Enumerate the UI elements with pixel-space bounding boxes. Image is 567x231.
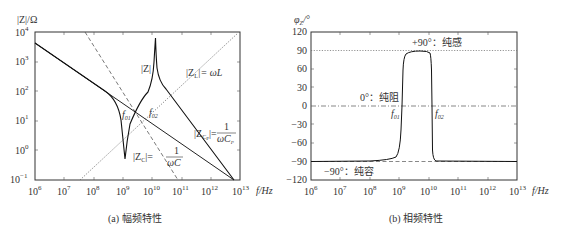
- svg-text:1010: 1010: [420, 184, 438, 197]
- svg-text:107: 107: [333, 184, 347, 197]
- svg-text:108: 108: [86, 184, 100, 197]
- svg-text:|ZCP|=: |ZCP|=: [194, 128, 217, 141]
- zc-line: [85, 32, 178, 180]
- f02-label: f02: [435, 108, 444, 120]
- svg-text:−90: −90: [291, 156, 307, 167]
- x-tick-labels: 106 107 108 109 1010 1011 1012 1013: [304, 184, 527, 197]
- svg-text:109: 109: [392, 184, 406, 197]
- svg-text:103: 103: [15, 54, 29, 67]
- svg-text:1010: 1010: [143, 184, 161, 197]
- caption-a: (a) 幅频特性: [108, 212, 162, 225]
- svg-text:1013: 1013: [509, 184, 527, 197]
- svg-text:106: 106: [304, 184, 318, 197]
- x-axis-label: f/Hz: [256, 185, 273, 196]
- zl-label: |ZL|= ωL: [186, 67, 223, 79]
- svg-text:120: 120: [292, 26, 307, 37]
- y-tick-labels: 120 90 60 30 0 −30 −60 −90 −120: [286, 26, 307, 185]
- svg-text:|ZC|=: |ZC|=: [133, 151, 153, 163]
- svg-text:104: 104: [15, 25, 29, 38]
- svg-text:1012: 1012: [201, 184, 219, 197]
- figure: 106 107 108 109 1010 1011 1012 1013 f/Hz…: [0, 0, 567, 231]
- svg-text:10−1: 10−1: [10, 172, 28, 185]
- f01-label: f01: [391, 108, 400, 120]
- svg-text:90: 90: [297, 45, 307, 56]
- svg-text:100: 100: [15, 143, 29, 156]
- svg-text:ωCP: ωCP: [217, 133, 234, 145]
- svg-text:1013: 1013: [232, 184, 250, 197]
- y-axis-label: φZ/°: [294, 14, 310, 26]
- svg-text:101: 101: [15, 113, 29, 126]
- y-tick-labels: 104 103 102 101 100 10−1: [10, 25, 29, 185]
- svg-text:107: 107: [57, 184, 71, 197]
- f01-label: f01: [122, 109, 131, 121]
- svg-text:1012: 1012: [479, 184, 497, 197]
- caption-b: (b) 相频特性: [389, 212, 443, 225]
- phase-chart: 106 107 108 109 1010 1011 1012 1013 f/Hz…: [286, 14, 548, 225]
- svg-text:102: 102: [15, 84, 29, 97]
- z-label: |Z|: [141, 63, 151, 74]
- svg-text:0: 0: [302, 100, 307, 111]
- svg-text:−30: −30: [291, 119, 307, 130]
- plus90-label: +90°：纯感: [412, 36, 462, 48]
- svg-text:109: 109: [116, 184, 130, 197]
- svg-text:106: 106: [28, 184, 42, 197]
- x-tick-labels: 106 107 108 109 1010 1011 1012 1013: [28, 184, 250, 197]
- svg-text:1011: 1011: [172, 184, 189, 197]
- svg-text:−120: −120: [286, 174, 307, 185]
- y-axis-label: |Z|/Ω: [17, 14, 37, 25]
- svg-text:30: 30: [297, 82, 307, 93]
- svg-text:ωC: ωC: [167, 157, 181, 168]
- svg-text:108: 108: [363, 184, 377, 197]
- svg-text:1011: 1011: [450, 184, 467, 197]
- minus90-label: −90°：纯容: [324, 165, 374, 177]
- f02-label: f02: [149, 107, 158, 119]
- svg-text:−60: −60: [291, 137, 307, 148]
- zcp-formula: |ZCP|= 1 ωCP: [194, 121, 236, 145]
- svg-text:1: 1: [174, 145, 179, 156]
- magnitude-chart: 106 107 108 109 1010 1011 1012 1013 f/Hz…: [10, 14, 273, 225]
- svg-text:60: 60: [297, 63, 307, 74]
- zl-line: [80, 33, 238, 180]
- zero-label: 0°：纯阻: [360, 91, 399, 103]
- svg-text:1: 1: [224, 121, 229, 132]
- x-axis-label: f/Hz: [532, 185, 549, 196]
